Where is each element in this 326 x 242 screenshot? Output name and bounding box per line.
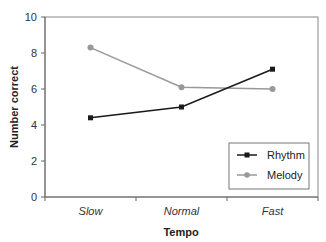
y-ticks: 0246810 [25, 11, 45, 203]
series-melody [88, 45, 276, 92]
legend-label-melody: Melody [267, 169, 303, 181]
x-tick-label: Normal [164, 205, 200, 217]
series-line [91, 69, 273, 118]
series-line [91, 48, 273, 89]
x-axis-title: Tempo [163, 226, 199, 238]
series-rhythm [88, 67, 275, 121]
y-tick-label: 4 [31, 119, 37, 131]
y-axis-title: Number correct [8, 66, 20, 148]
legend: Rhythm Melody [229, 143, 309, 189]
y-tick-label: 8 [31, 47, 37, 59]
square-marker-icon [245, 153, 250, 158]
series-layer [88, 45, 276, 121]
square-marker-icon [179, 105, 184, 110]
x-tick-label: Fast [262, 205, 284, 217]
circle-marker-icon [270, 86, 276, 92]
square-marker-icon [88, 115, 93, 120]
y-tick-label: 2 [31, 155, 37, 167]
line-chart: 0246810 SlowNormalFast Tempo Number corr… [0, 0, 326, 242]
y-tick-label: 6 [31, 83, 37, 95]
square-marker-icon [270, 67, 275, 72]
circle-marker-icon [88, 45, 94, 51]
y-tick-label: 0 [31, 191, 37, 203]
x-tick-label: Slow [79, 205, 104, 217]
x-ticks: SlowNormalFast [45, 197, 318, 217]
circle-marker-icon [244, 172, 250, 178]
legend-label-rhythm: Rhythm [267, 149, 305, 161]
circle-marker-icon [179, 84, 185, 90]
y-tick-label: 10 [25, 11, 37, 23]
